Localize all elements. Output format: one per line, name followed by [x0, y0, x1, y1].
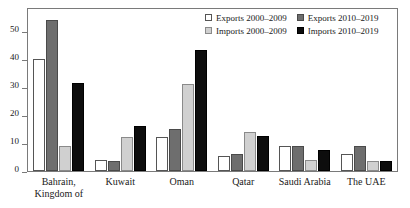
bar-group	[151, 9, 213, 171]
legend-label: Imports 2000–2009	[216, 26, 287, 36]
x-axis-label: Kuwait	[90, 174, 152, 208]
bar-group	[90, 9, 152, 171]
legend-item: Imports 2000–2009	[205, 26, 287, 36]
legend-swatch-icon	[297, 14, 304, 21]
y-axis: 01020304050	[0, 8, 27, 172]
y-axis-tick-label: 10	[10, 137, 19, 146]
bar	[72, 83, 84, 171]
bar	[182, 84, 194, 171]
bar	[156, 137, 168, 171]
bar	[169, 129, 181, 171]
bar	[59, 146, 71, 171]
legend-item: Exports 2000–2009	[205, 13, 287, 23]
bar	[195, 50, 207, 172]
bar	[33, 59, 45, 171]
x-axis-label: Oman	[151, 174, 213, 208]
y-axis-tick-label: 0	[15, 165, 20, 174]
bar	[121, 137, 133, 171]
bar	[279, 146, 291, 171]
bar	[354, 146, 366, 171]
bar	[46, 20, 58, 171]
legend-item: Exports 2010–2019	[297, 13, 379, 23]
y-axis-tick-mark	[22, 60, 27, 61]
y-axis-tick-mark	[22, 116, 27, 117]
y-axis-tick-label: 50	[10, 25, 19, 34]
x-axis-label: Bahrain,Kingdom of	[28, 174, 90, 208]
legend-swatch-icon	[205, 14, 212, 21]
legend-label: Exports 2000–2009	[216, 13, 287, 23]
legend-label: Exports 2010–2019	[308, 13, 379, 23]
bar	[95, 160, 107, 171]
y-axis-tick-label: 40	[10, 53, 19, 62]
x-axis-labels: Bahrain,Kingdom ofKuwaitOmanQatarSaudi A…	[28, 174, 397, 208]
bar	[292, 146, 304, 171]
bar-chart: 01020304050 Bahrain,Kingdom ofKuwaitOman…	[0, 0, 410, 208]
y-axis-tick-label: 20	[10, 109, 19, 118]
legend-swatch-icon	[297, 27, 304, 34]
bar	[134, 126, 146, 171]
y-axis-tick-mark	[22, 172, 27, 173]
y-axis-tick-mark	[22, 32, 27, 33]
y-axis-tick-mark	[22, 88, 27, 89]
bar	[231, 154, 243, 171]
bar	[244, 132, 256, 171]
x-axis-label: Saudi Arabia	[274, 174, 336, 208]
chart-legend: Exports 2000–2009Exports 2010–2019Import…	[205, 11, 379, 37]
bar	[257, 136, 269, 171]
x-axis-label: The UAE	[336, 174, 398, 208]
bar	[318, 150, 330, 171]
bar	[367, 161, 379, 171]
bar	[305, 160, 317, 171]
legend-label: Imports 2010–2019	[308, 26, 379, 36]
bar	[218, 156, 230, 171]
bar-group	[28, 9, 90, 171]
legend-swatch-icon	[205, 27, 212, 34]
legend-item: Imports 2010–2019	[297, 26, 379, 36]
x-axis-label: Qatar	[213, 174, 275, 208]
y-axis-tick-mark	[22, 144, 27, 145]
bar	[380, 161, 392, 171]
bar	[108, 161, 120, 171]
y-axis-tick-label: 30	[10, 81, 19, 90]
bar	[341, 154, 353, 171]
